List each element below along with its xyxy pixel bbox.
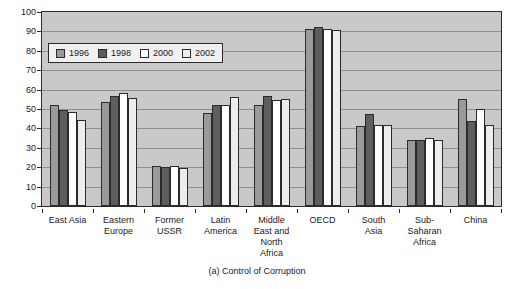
x-axis-tick-mark bbox=[348, 209, 349, 213]
bar bbox=[416, 140, 425, 206]
legend-label: 1996 bbox=[69, 49, 89, 58]
x-axis-tick-label: China bbox=[441, 215, 510, 226]
bar-group bbox=[101, 12, 137, 206]
legend-swatch-icon bbox=[140, 49, 149, 58]
bar bbox=[425, 138, 434, 206]
x-axis-tick-mark bbox=[246, 209, 247, 213]
bar bbox=[161, 167, 170, 206]
bar bbox=[170, 166, 179, 206]
bar bbox=[332, 30, 341, 206]
bar bbox=[476, 109, 485, 206]
legend-item: 2002 bbox=[182, 49, 215, 58]
bar bbox=[374, 125, 383, 206]
bar bbox=[263, 96, 272, 206]
bar bbox=[179, 168, 188, 206]
legend-label: 1998 bbox=[111, 49, 131, 58]
bar bbox=[230, 97, 239, 206]
legend-swatch-icon bbox=[182, 49, 191, 58]
bar bbox=[128, 98, 137, 206]
bar bbox=[59, 110, 68, 206]
x-axis-tick-label: East and bbox=[237, 226, 306, 237]
bar bbox=[110, 96, 119, 206]
x-axis-group-label: China bbox=[441, 215, 510, 226]
x-axis-tick-label: Saharan bbox=[390, 226, 459, 237]
bar-group bbox=[152, 12, 188, 206]
legend-swatch-icon bbox=[98, 49, 107, 58]
bar bbox=[203, 113, 212, 206]
bar-group bbox=[254, 12, 290, 206]
bar-group bbox=[50, 12, 86, 206]
bar-group bbox=[458, 12, 494, 206]
bar-group bbox=[356, 12, 392, 206]
bar-group bbox=[203, 12, 239, 206]
x-axis-tick-label: Africa bbox=[390, 237, 459, 248]
y-axis-tick-label: 90 bbox=[26, 27, 36, 36]
bar bbox=[305, 29, 314, 207]
bar bbox=[152, 166, 161, 206]
bar bbox=[365, 114, 374, 206]
y-axis-tick-label: 60 bbox=[26, 85, 36, 94]
bar bbox=[314, 27, 323, 206]
legend-label: 2002 bbox=[195, 49, 215, 58]
bar bbox=[356, 126, 365, 206]
y-axis-tick-label: 100 bbox=[21, 8, 36, 17]
x-axis-tick-mark bbox=[450, 209, 451, 213]
bar bbox=[407, 140, 416, 206]
figure-caption: (a) Control of Corruption bbox=[0, 266, 514, 276]
x-axis-tick-mark bbox=[501, 209, 502, 213]
bars-layer bbox=[42, 12, 501, 206]
bar bbox=[221, 105, 230, 206]
y-axis-tick-label: 20 bbox=[26, 163, 36, 172]
chart-legend: 1996199820002002 bbox=[48, 43, 223, 63]
legend-swatch-icon bbox=[56, 49, 65, 58]
bar bbox=[467, 121, 476, 206]
figure-control-of-corruption: 0102030405060708090100 1996199820002002 … bbox=[0, 0, 514, 289]
bar bbox=[485, 125, 494, 206]
y-axis: 0102030405060708090100 bbox=[0, 0, 41, 207]
bar bbox=[272, 100, 281, 206]
x-axis-tick-mark bbox=[144, 209, 145, 213]
bar bbox=[212, 105, 221, 206]
bar-group bbox=[407, 12, 443, 206]
x-axis-tick-mark bbox=[93, 209, 94, 213]
bar bbox=[101, 102, 110, 206]
bar bbox=[458, 99, 467, 206]
bar-group bbox=[305, 12, 341, 206]
x-axis-tick-mark bbox=[195, 209, 196, 213]
bar bbox=[68, 112, 77, 206]
bar bbox=[434, 140, 443, 206]
bar bbox=[50, 105, 59, 206]
legend-item: 2000 bbox=[140, 49, 173, 58]
x-axis-tick-label: Africa bbox=[237, 248, 306, 259]
y-axis-tick-label: 30 bbox=[26, 143, 36, 152]
y-axis-tick-label: 70 bbox=[26, 66, 36, 75]
bar bbox=[77, 120, 86, 206]
x-axis-tick-mark bbox=[42, 209, 43, 213]
y-axis-tick-label: 40 bbox=[26, 124, 36, 133]
x-axis: East AsiaEasternEuropeFormerUSSRLatinAme… bbox=[42, 209, 501, 271]
y-axis-tick-label: 10 bbox=[26, 182, 36, 191]
y-axis-tick-label: 80 bbox=[26, 46, 36, 55]
y-axis-tick-label: 50 bbox=[26, 105, 36, 114]
x-axis-tick-mark bbox=[399, 209, 400, 213]
x-axis-tick-mark bbox=[297, 209, 298, 213]
legend-label: 2000 bbox=[153, 49, 173, 58]
bar bbox=[281, 99, 290, 206]
bar bbox=[254, 105, 263, 206]
y-axis-tick-label: 0 bbox=[31, 202, 36, 211]
legend-item: 1998 bbox=[98, 49, 131, 58]
bar bbox=[119, 93, 128, 206]
legend-item: 1996 bbox=[56, 49, 89, 58]
bar bbox=[383, 125, 392, 206]
x-axis-tick-label: North bbox=[237, 237, 306, 248]
bar bbox=[323, 29, 332, 207]
